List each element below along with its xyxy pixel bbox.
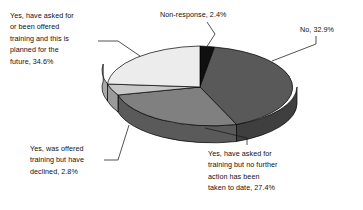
leader-line-no bbox=[272, 36, 316, 61]
leader-line-nonresponse bbox=[206, 22, 215, 48]
pie-chart-figure: Yes, have asked for or been offered trai… bbox=[0, 0, 363, 210]
slice-label-non-response: Non-response, 2.4% bbox=[160, 9, 260, 20]
slice-label-no: No, 32.9% bbox=[300, 24, 360, 35]
slice-label-declined: Yes, was offered training but have decli… bbox=[30, 143, 130, 177]
slice-side-future bbox=[102, 64, 107, 101]
slice-label-no-further-action: Yes, have asked for training but no furt… bbox=[208, 148, 318, 194]
slice-label-planned-future: Yes, have asked for or been offered trai… bbox=[10, 10, 115, 67]
slice-top-future bbox=[108, 46, 201, 87]
